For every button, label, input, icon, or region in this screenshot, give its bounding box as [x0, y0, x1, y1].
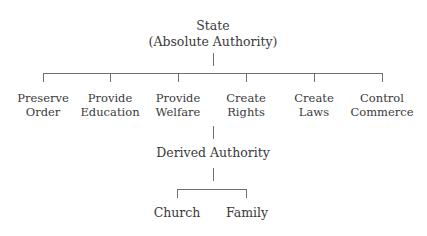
- node-family: Family: [226, 205, 268, 221]
- node-state-title: State: [149, 18, 278, 34]
- node-create-laws: Create Laws: [294, 91, 333, 119]
- connector-tick-create-rights: [246, 73, 247, 82]
- node-provide-welfare: Provide Welfare: [156, 91, 201, 119]
- node-create-rights: Create Rights: [226, 91, 265, 119]
- connector-tick-provide-welfare: [178, 73, 179, 82]
- node-preserve-order: Preserve Order: [17, 91, 69, 119]
- connector-children-bar: [177, 189, 247, 190]
- connector-tick-control-commerce: [382, 73, 383, 82]
- node-control-commerce: Control Commerce: [350, 91, 413, 119]
- node-label-line1: Create: [226, 91, 265, 105]
- node-label-line1: Preserve: [17, 91, 69, 105]
- node-church: Church: [154, 205, 201, 221]
- node-label-line2: Commerce: [350, 105, 413, 119]
- node-label-line2: Order: [17, 105, 69, 119]
- node-provide-education: Provide Education: [80, 91, 139, 119]
- node-label-line2: Welfare: [156, 105, 201, 119]
- connector-tick-church: [177, 189, 178, 198]
- node-label-line1: Provide: [80, 91, 139, 105]
- node-state-subtitle: (Absolute Authority): [149, 34, 278, 50]
- connector-tick-create-laws: [314, 73, 315, 82]
- connector-tick-provide-education: [110, 73, 111, 82]
- node-label-line2: Education: [80, 105, 139, 119]
- connector-tick-preserve-order: [43, 73, 44, 82]
- node-label-line1: Create: [294, 91, 333, 105]
- connector-derived-down: [213, 168, 214, 181]
- connector-to-derived: [213, 126, 214, 139]
- connector-root-down: [213, 53, 214, 66]
- connector-tick-family: [246, 189, 247, 198]
- node-label-line2: Laws: [294, 105, 333, 119]
- node-label-line2: Rights: [226, 105, 265, 119]
- node-state: State (Absolute Authority): [149, 18, 278, 50]
- connector-functions-bar: [43, 73, 383, 74]
- node-derived-authority: Derived Authority: [156, 145, 270, 161]
- node-label-line1: Provide: [156, 91, 201, 105]
- node-label-line1: Control: [350, 91, 413, 105]
